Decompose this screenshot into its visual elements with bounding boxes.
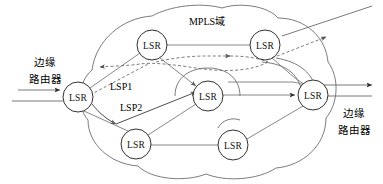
lsp2-label: LSP2 [120, 102, 142, 113]
lsr-node-center[interactable]: LSR [193, 81, 223, 111]
lsr-node-label: LSR [69, 93, 87, 103]
lsr-node-north-east[interactable]: LSR [250, 30, 280, 60]
link-southe-east [247, 106, 303, 139]
lsr-node-label: LSR [143, 41, 161, 51]
lsp2-segment-down [92, 104, 116, 124]
mpls-domain-label: MPLS域 [189, 15, 225, 27]
lsr-node-label: LSR [199, 92, 217, 102]
link-west-southw [84, 111, 128, 131]
left-edge-router-label-line2: 路由器 [29, 73, 62, 85]
figure-canvas: LSR LSR LSR LSR LSR LSR LSR MPLS域 边缘 [0, 0, 383, 184]
right-edge-router-label-line2: 路由器 [338, 124, 371, 136]
mpls-network-diagram: LSR LSR LSR LSR LSR LSR LSR MPLS域 边缘 [0, 0, 383, 184]
lsr-node-label: LSR [127, 140, 145, 150]
lsr-node-label: LSR [256, 41, 274, 51]
lsr-node-east[interactable]: LSR [298, 80, 328, 110]
lsr-node-west[interactable]: LSR [63, 82, 93, 112]
lsr-node-south-east[interactable]: LSR [218, 130, 248, 160]
right-edge-router-label-line1: 边缘 [343, 107, 365, 119]
link-northe-east [272, 58, 304, 84]
lsr-node-label: LSR [304, 91, 322, 101]
link-northw-center [160, 58, 196, 86]
lsp2-path [92, 92, 196, 124]
link-arc-center-east [228, 82, 310, 90]
lsr-node-label: LSR [224, 141, 242, 151]
lsp1-label: LSP1 [110, 81, 132, 92]
lsp1-dashed-forward [156, 56, 230, 62]
lsr-node-north-west[interactable]: LSR [137, 30, 167, 60]
lsr-node-south-west[interactable]: LSR [121, 129, 151, 159]
left-edge-router-label-line1: 边缘 [34, 56, 56, 68]
